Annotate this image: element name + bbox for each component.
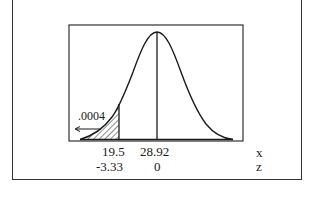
z-tick-cutoff: -3.33 bbox=[96, 160, 123, 173]
plot-box bbox=[69, 25, 243, 141]
z-axis-label: z bbox=[256, 160, 262, 173]
x-tick-cutoff: 19.5 bbox=[102, 145, 125, 158]
x-axis-label: x bbox=[256, 146, 263, 159]
normal-curve-plot bbox=[0, 0, 309, 206]
tail-area-label: .0004 bbox=[78, 110, 105, 123]
z-tick-mean: 0 bbox=[154, 160, 161, 173]
x-tick-mean: 28.92 bbox=[140, 145, 169, 158]
